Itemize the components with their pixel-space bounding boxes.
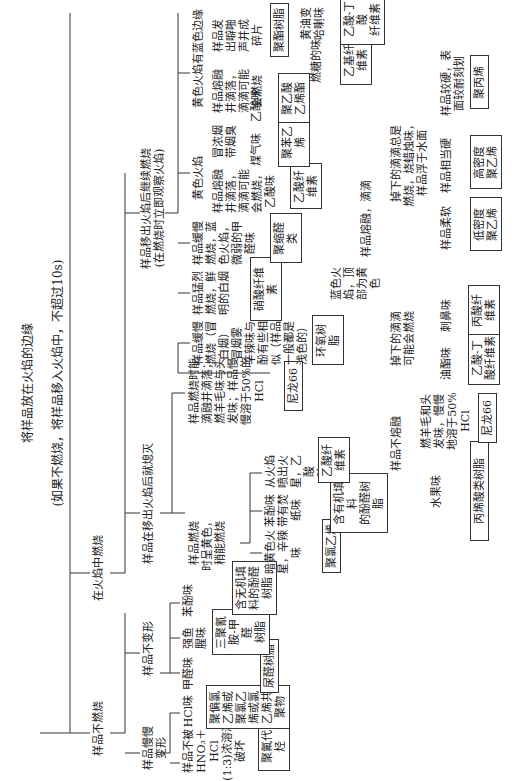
result-polyester: 聚酯树脂 xyxy=(270,3,289,57)
cond-fishy: 强鱼 腥味 xyxy=(182,623,208,653)
result-polyacetal: 聚缩醛类 xyxy=(270,213,302,263)
cond-paper-phenol: 苯酚味 带有焚 纸味 xyxy=(264,492,303,528)
cond-blue-slow: 样品缓慢 燃烧，蓝 色火焰， 微弱的甲 醛味 xyxy=(192,221,257,265)
cond-melt-acetic: 样品熔融 并滴落， 滴滴可能 会燃烧， 乙酸味 xyxy=(212,169,277,213)
cond-pungent: 刺鼻味 xyxy=(440,295,453,335)
blue-top-yellow-label: 蓝色火 焰，顶 部为黄 色 xyxy=(330,263,382,303)
title-main: 将样品放在火焰的边缘 xyxy=(21,243,36,523)
root-title: 将样品放在火焰的边缘 (如果不燃烧，将样品移入火焰中，不超过10s) xyxy=(6,243,81,523)
no-burn-label: 样品不燃烧 xyxy=(92,693,105,763)
cond-drips-always-burn: 掉下的滴滴总是 燃烧，烧蜡烛味， 样品浮于水面 xyxy=(390,113,429,213)
result-hdpe: 高密度 聚乙烯 xyxy=(470,135,502,189)
result-cab-2: 乙酸-丁 酸纤维素 xyxy=(468,331,500,385)
title-sub: (如果不燃烧，将样品移入火焰中，不超过10s) xyxy=(51,243,66,523)
no-melt-label: 样品不熔融 xyxy=(390,413,403,473)
cond-rancid-butter: 黄油变哈喇味 xyxy=(300,3,326,43)
result-polystyrene: 聚苯乙烯 xyxy=(278,117,310,167)
cond-soft: 样品柔软 xyxy=(440,203,453,253)
slow-deform-label: 样品慢慢变形 xyxy=(142,723,168,773)
cond-hard-scratch: 样品较硬，表 面较耐刻划 xyxy=(440,43,466,123)
cond-violent: 样品猛烈 燃烧，鲜 明的白烟 xyxy=(192,271,231,315)
result-epoxy: 环氧树脂 xyxy=(312,315,344,365)
result-nylon66-1: 尼龙66 xyxy=(284,361,303,411)
result-acrylic: 丙烯酸类树脂 xyxy=(470,441,489,541)
cond-dark-spark: 暗黄色火 星，辛辣 味 xyxy=(264,527,303,577)
cond-wool-hcl: 燃羊毛和头 发味，慢慢 地溶于50% HCl xyxy=(420,389,472,453)
burn-in-flame-label: 在火焰中燃烧 xyxy=(92,528,105,608)
melt-drip-label: 样品熔融，滴滴 xyxy=(360,173,373,263)
cond-nitric: 样品不被 HNO₃＋HCl (1:3)浓溶液 破坏 xyxy=(182,721,247,781)
yellow-blue-edge-label: 黄色火焰有蓝色边缘 xyxy=(192,3,205,113)
cond-drips-may-burn: 掉下的滴滴 可能会燃烧 xyxy=(390,303,416,373)
result-cellulose-acetate-1: 乙酸纤维素 xyxy=(318,437,350,483)
result-ldpe: 低密度 聚乙烯 xyxy=(470,197,502,251)
result-cab-1: 乙酸-丁酸 纤维素 xyxy=(340,0,385,45)
yellow-flame-label: 黄色火焰 xyxy=(192,153,205,203)
result-pvac: 聚乙酸 乙烯酯 xyxy=(278,73,310,123)
cond-melt-drip-burn: 样品熔融 并滴落， 滴滴可能 会燃烧 xyxy=(212,69,264,113)
cond-oily: 油酯味 xyxy=(440,343,453,383)
result-cellulose-propionate: 丙酸纤 维素 xyxy=(468,285,500,335)
result-nitrocellulose: 硝酸纤维素 xyxy=(250,257,282,321)
result-nylon66-2: 尼龙66 xyxy=(478,393,497,443)
cond-drip-wool: 样品燃烧时能 滴融并滴落； 燃羊毛味与头 发味；样品慢 慢溶于50%的 HCl xyxy=(188,354,266,428)
cond-slow-smoke: 样品缓慢 燃烧（冒 白烟） 冒烟雾 辛辣味与 酚有些相 似（样品 一般都是 浅色… xyxy=(192,321,309,365)
no-deform-label: 样品不变形 xyxy=(142,618,155,678)
result-melamine: 三聚氰 胺-甲醛 树脂 xyxy=(212,609,270,655)
cond-fairly-hard: 样品相当硬 xyxy=(440,137,453,193)
cond-phenol: 苯酚味 xyxy=(182,582,195,618)
cond-dense-smoke: 冒浓烟 带烟臭 xyxy=(212,121,238,161)
yellow-self-ext-cond: 样品燃烧 时呈黄色， 稍能燃烧 xyxy=(188,513,227,573)
result-cellulose-acetate-2: 乙酸纤 维素 xyxy=(290,163,322,209)
cond-hcl: HCl味 xyxy=(182,694,195,728)
extinguish-label: 样品在移出火焰后就熄灭 xyxy=(142,438,155,568)
cond-fruity: 水果味 xyxy=(430,469,443,513)
continue-label: 样品移出火焰后继续燃烧 (在燃烧时立即观察火焰) xyxy=(140,123,166,293)
cond-gas-smell: 煤气味 xyxy=(250,131,263,167)
cond-formaldehyde: 甲醛味 xyxy=(182,655,195,691)
cond-burnt-sugar: 燃糖的味 xyxy=(310,39,323,83)
result-polypropylene: 聚丙烯 xyxy=(470,55,489,109)
cond-crackle: 样品发 出噼啪 声并成 碎片 xyxy=(212,15,264,55)
